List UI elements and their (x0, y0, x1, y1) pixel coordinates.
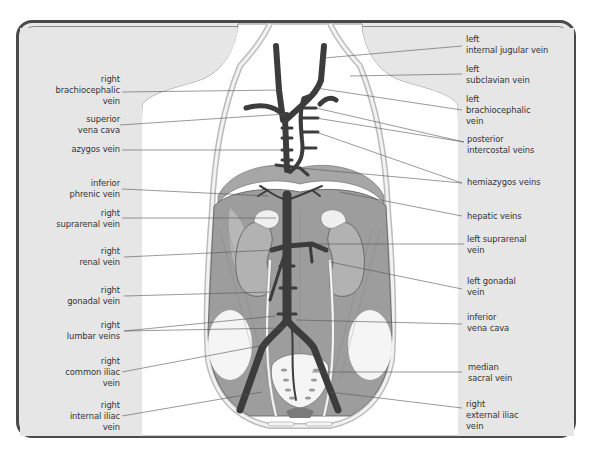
label-line: azygos vein (71, 144, 120, 155)
label-line: subclavian vein (466, 75, 530, 86)
label-line: internal jugular vein (466, 45, 548, 56)
label-superior-vena-cava: superior vena cava (78, 114, 120, 136)
label-line: brachiocephalic (466, 105, 531, 116)
label-right-gonadal-vein: right gonadal vein (67, 285, 120, 307)
label-line: vein (467, 287, 516, 298)
label-line: right (466, 399, 518, 410)
label-line: intercostal veins (467, 145, 534, 156)
label-right-internal-iliac-vein: right internal iliac vein (70, 400, 120, 433)
label-line: brachiocephalic (55, 85, 120, 96)
label-inferior-phrenic-vein: inferior phrenic vein (70, 178, 120, 200)
label-azygos-vein: azygos vein (71, 144, 120, 155)
label-inferior-vena-cava: inferior vena cava (467, 312, 509, 334)
label-line: inferior (70, 178, 120, 189)
label-line: vein (466, 116, 531, 127)
label-line: right (67, 320, 120, 331)
label-line: left gonadal (467, 276, 516, 287)
label-line: left (466, 94, 531, 105)
label-line: left (466, 64, 530, 75)
label-line: phrenic vein (70, 189, 120, 200)
label-left-subclavian-vein: left subclavian vein (466, 64, 530, 86)
label-line: posterior (467, 134, 534, 145)
label-posterior-intercostal-veins: posterior intercostal veins (467, 134, 534, 156)
label-line: right (65, 356, 120, 367)
label-line: right (55, 74, 120, 85)
label-line: external iliac (466, 410, 518, 421)
label-line: sacral vein (468, 373, 512, 384)
label-line: vena cava (78, 125, 120, 136)
label-line: vein (467, 245, 526, 256)
label-line: hepatic veins (467, 211, 522, 222)
label-left-gonadal-vein: left gonadal vein (467, 276, 516, 298)
label-right-lumbar-veins: right lumbar veins (67, 320, 120, 342)
label-left-internal-jugular-vein: left internal jugular vein (466, 34, 548, 56)
label-right-external-iliac-vein: right external iliac vein (466, 399, 518, 432)
label-line: left suprarenal (467, 234, 526, 245)
label-line: lumbar veins (67, 331, 120, 342)
label-line: hemiazygos veins (467, 177, 540, 188)
label-line: vena cava (467, 323, 509, 334)
label-line: renal vein (79, 257, 120, 268)
label-line: right (70, 400, 120, 411)
label-line: vein (466, 421, 518, 432)
label-line: right (67, 285, 120, 296)
label-left-brachiocephalic-vein: left brachiocephalic vein (466, 94, 531, 127)
label-line: suprarenal vein (56, 219, 120, 230)
label-line: right (56, 208, 120, 219)
label-line: inferior (467, 312, 509, 323)
label-line: gonadal vein (67, 296, 120, 307)
label-median-sacral-vein: median sacral vein (468, 362, 512, 384)
label-line: superior (78, 114, 120, 125)
label-line: internal iliac (70, 411, 120, 422)
label-line: right (79, 246, 120, 257)
label-right-renal-vein: right renal vein (79, 246, 120, 268)
label-line: vein (55, 96, 120, 107)
label-hemiazygos-veins: hemiazygos veins (467, 177, 540, 188)
label-line: common iliac (65, 367, 120, 378)
label-right-brachiocephalic-vein: right brachiocephalic vein (55, 74, 120, 107)
label-line: left (466, 34, 548, 45)
label-right-common-iliac-vein: right common iliac vein (65, 356, 120, 389)
label-line: vein (70, 422, 120, 433)
label-hepatic-veins: hepatic veins (467, 211, 522, 222)
label-line: vein (65, 378, 120, 389)
label-left-suprarenal-vein: left suprarenal vein (467, 234, 526, 256)
label-line: median (468, 362, 512, 373)
label-right-suprarenal-vein: right suprarenal vein (56, 208, 120, 230)
